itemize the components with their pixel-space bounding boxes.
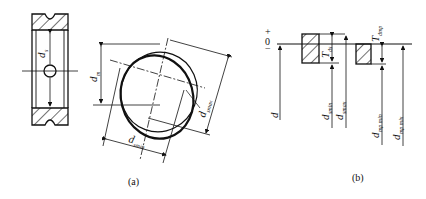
ellipse-view [93,38,232,163]
svg-text:−: − [265,43,271,54]
dsmax-b-label: d smax [333,101,347,120]
svg-text:s: s [43,49,49,52]
svg-text:smin: smin [327,103,333,114]
dsmin-b-label: d smin [319,103,333,120]
svg-text:mp mix: mp mix [398,116,404,134]
ds-label: d s [35,49,49,58]
dm-label: d m [87,71,101,82]
svg-text:smin: smin [133,142,146,151]
svg-text:ds: ds [327,46,333,52]
caption-a: (a) [128,176,139,188]
ring-cross-section [22,14,78,125]
caption-b: (b) [352,172,364,184]
dmpmin-label: d mp min [369,114,383,138]
svg-text:dmp: dmp [377,26,383,36]
tds-label: T ds [319,46,333,58]
dmpmax-label: d mp mix [390,116,404,140]
d-label: d [268,112,280,118]
svg-text:m: m [95,71,101,76]
tolerance-diagram [277,34,412,146]
tdmp-label: T dmp [369,26,383,42]
svg-text:smax: smax [341,101,347,114]
svg-text:d: d [268,112,280,118]
diagram-canvas: d s d m d smax d smin (a) [0,0,426,199]
svg-text:mp min: mp min [377,114,383,132]
zero-line-markers: + 0 − [265,26,271,54]
